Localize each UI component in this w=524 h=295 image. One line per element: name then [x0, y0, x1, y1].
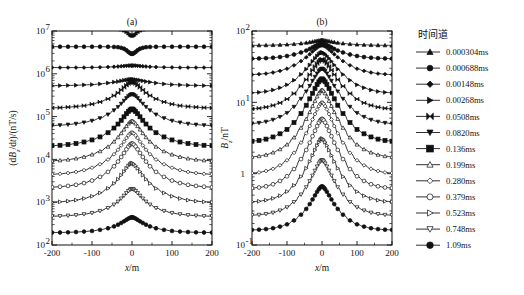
xaxis-title-b: x/m — [314, 263, 330, 273]
marker-diamond — [66, 66, 70, 70]
legend-item[interactable]: 0.00148ms — [416, 79, 485, 89]
marker-triangle-up — [112, 27, 116, 30]
marker-square — [311, 91, 315, 95]
marker-triangle-down — [186, 122, 190, 125]
marker-triangle-right — [428, 210, 434, 216]
marker-diamond — [264, 72, 268, 76]
yticklabel-b-exp: 2 — [246, 22, 251, 32]
legend-item[interactable]: 0.280ms — [416, 176, 476, 186]
marker-triangle-up — [292, 42, 296, 45]
marker-triangle-right — [74, 83, 77, 87]
legend-item[interactable]: 1.09ms — [416, 240, 472, 250]
marker-circle — [170, 229, 174, 233]
marker-circle — [271, 182, 275, 186]
marker-triangle-right — [106, 187, 109, 191]
yticklabel-a-text: 10 — [36, 197, 46, 207]
marker-triangle-up — [186, 157, 190, 160]
marker-circle — [136, 147, 140, 151]
marker-triangle-up — [250, 155, 254, 158]
marker-circle — [90, 229, 94, 233]
marker-triangle-up — [313, 99, 317, 102]
marker-square — [141, 118, 145, 122]
marker-triangle-right — [202, 84, 205, 88]
marker-triangle-down — [58, 215, 62, 218]
marker-circle — [390, 57, 394, 61]
marker-triangle-up — [264, 153, 268, 156]
marker-circle — [74, 230, 78, 234]
marker-diamond — [50, 66, 54, 70]
marker-triangle-down — [82, 121, 86, 124]
marker-circle — [257, 57, 261, 61]
legend-label: 0.280ms — [446, 176, 476, 186]
marker-triangle-up — [82, 27, 86, 30]
legend-item[interactable]: 0.00268ms — [416, 95, 485, 105]
marker-diamond — [257, 72, 261, 76]
marker-triangle-right — [428, 97, 434, 103]
marker-bowtie — [278, 101, 282, 105]
figure-container: -200-1000100200102103104105106107(a)x/m-… — [0, 0, 524, 295]
xaxis-rest: /m — [129, 263, 140, 273]
marker-square — [285, 127, 289, 131]
panel-b: -200-100010020010-11101102(b)x/m — [236, 17, 399, 273]
marker-circle — [348, 53, 352, 57]
marker-square — [116, 122, 120, 126]
marker-triangle-right — [194, 84, 197, 88]
marker-diamond — [325, 108, 329, 112]
marker-square — [369, 135, 373, 139]
marker-triangle-right — [162, 191, 165, 195]
yticklabel-a-exp: 5 — [46, 107, 51, 117]
marker-circle — [376, 184, 380, 188]
series-b-7 — [250, 88, 394, 158]
legend-item[interactable]: 0.000688ms — [416, 63, 489, 73]
marker-diamond — [210, 66, 214, 70]
marker-bowtie — [376, 105, 380, 109]
marker-triangle-up — [278, 43, 282, 46]
legend-item[interactable]: 0.379ms — [416, 192, 476, 202]
legend-item[interactable]: 0.523ms — [416, 208, 476, 218]
marker-circle — [250, 186, 254, 190]
legend-item[interactable]: 0.000304ms — [416, 47, 489, 57]
marker-triangle-up — [390, 43, 394, 46]
marker-circle — [186, 230, 190, 234]
legend-item[interactable]: 0.0820ms — [416, 128, 480, 138]
marker-bowtie — [202, 106, 206, 110]
marker-bowtie — [285, 97, 289, 101]
legend-item[interactable]: 0.199ms — [416, 160, 476, 170]
marker-triangle-down — [299, 97, 303, 100]
marker-bowtie — [170, 102, 174, 106]
xticklabel-a: 200 — [205, 248, 219, 258]
curve-line — [52, 109, 212, 146]
marker-triangle-right — [383, 199, 386, 203]
marker-circle — [154, 170, 158, 174]
legend-item[interactable]: 0.136ms — [416, 144, 476, 154]
yticklabel-a: 107 — [36, 22, 51, 37]
marker-triangle-right — [341, 73, 344, 77]
legend-item[interactable]: 0.748ms — [416, 224, 476, 234]
marker-triangle-right — [90, 83, 93, 87]
marker-square — [178, 140, 182, 144]
marker-diamond — [369, 71, 373, 75]
marker-diamond — [285, 67, 289, 71]
marker-triangle-down — [264, 120, 268, 123]
legend-item[interactable]: 0.0508ms — [416, 112, 480, 122]
marker-square — [308, 97, 312, 101]
marker-circle — [82, 181, 86, 185]
marker-diamond — [348, 63, 352, 67]
marker-square — [66, 143, 70, 147]
marker-triangle-right — [148, 181, 151, 185]
marker-triangle-up — [170, 153, 174, 156]
marker-triangle-up — [98, 149, 102, 152]
series-a-7 — [50, 119, 214, 162]
marker-bowtie — [311, 68, 315, 72]
marker-bowtie — [194, 105, 198, 109]
marker-triangle-up — [170, 27, 174, 30]
marker-triangle-down — [74, 122, 78, 125]
marker-bowtie — [112, 94, 116, 98]
marker-triangle-right — [82, 83, 85, 87]
marker-triangle-right — [66, 199, 69, 203]
marker-circle — [106, 170, 110, 174]
marker-circle — [82, 45, 86, 49]
marker-circle — [148, 225, 152, 229]
marker-triangle-right — [58, 200, 61, 204]
marker-triangle-right — [98, 82, 101, 86]
